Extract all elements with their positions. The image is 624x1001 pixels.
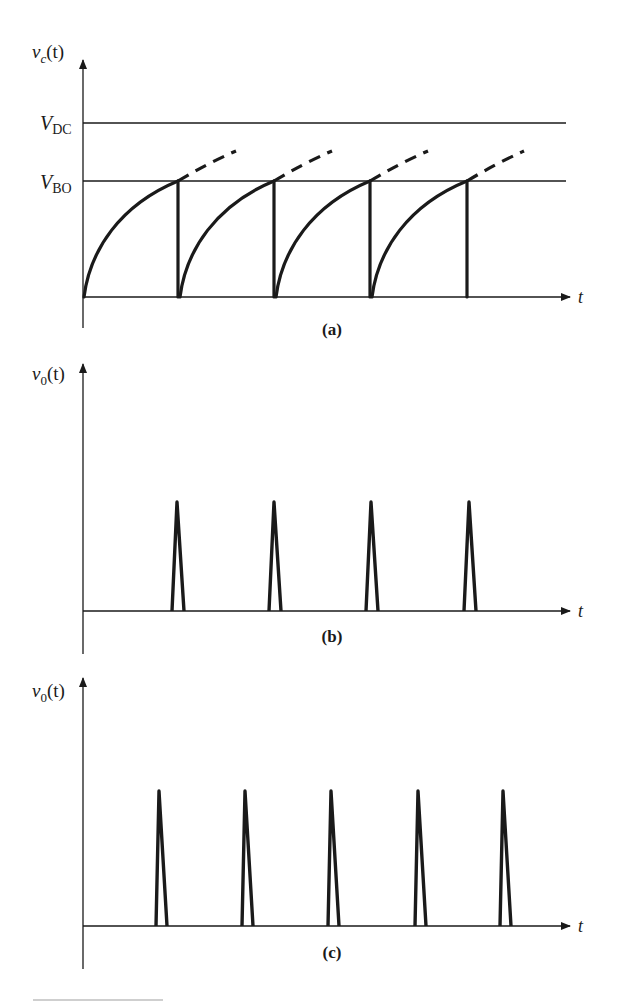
- figure: vc(t) VDC VBO t (a) v0(t) t (b): [0, 0, 624, 1001]
- vdc-label: VDC: [40, 112, 72, 137]
- panel-c-y-label: v0(t): [32, 680, 65, 705]
- panel-c: v0(t) t (c): [32, 678, 584, 969]
- vc-dashed-extensions: [178, 151, 524, 181]
- panel-b: v0(t) t (b): [32, 363, 584, 654]
- panel-a-y-label: vc(t): [32, 41, 64, 66]
- panel-c-caption: (c): [323, 943, 342, 962]
- panel-b-x-label: t: [578, 601, 584, 621]
- panel-b-y-label: v0(t): [32, 363, 65, 388]
- panel-a-caption: (a): [322, 320, 342, 339]
- panel-b-pulses: [172, 502, 476, 611]
- vbo-label: VBO: [40, 171, 72, 196]
- panel-a-x-label: t: [578, 287, 584, 307]
- vc-sawtooth-series: [84, 181, 467, 297]
- panel-a: vc(t) VDC VBO t (a): [32, 41, 584, 339]
- panel-c-x-label: t: [578, 916, 584, 936]
- panel-c-pulses: [156, 791, 511, 926]
- panel-b-caption: (b): [322, 627, 343, 646]
